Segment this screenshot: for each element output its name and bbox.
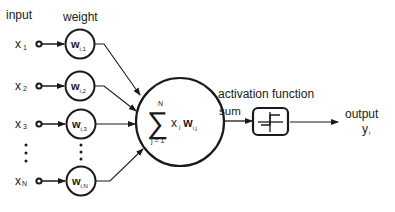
sum-label: sum [219,105,241,117]
step-function-icon [253,108,288,135]
input-row-2: x2 wi,2 [15,72,136,112]
input-node-icon [36,178,41,183]
input-header: input [6,8,33,22]
weight-node [67,167,96,196]
input-label: x2 [15,79,27,93]
input-node-icon [36,83,41,88]
weight-node [66,30,95,59]
input-label: x3 [15,117,27,131]
weight-node [67,110,96,139]
sum-lower-limit: j = 1 [150,137,165,145]
sigma-icon: ∑ [147,106,168,140]
output-label: output [345,107,379,121]
input-row-n: xN wi,N [15,149,143,196]
activation-label: activation function [218,87,314,101]
neuron-diagram: input weight x1 wi,1 x2 wi,2 x3 wi,3 xN [0,0,395,212]
input-row-3: x3 wi,3 [15,110,135,139]
output-symbol: yi [362,122,370,136]
input-node-icon [36,121,41,126]
weight-header: weight [62,10,98,24]
input-label: xN [15,174,27,188]
input-label: x1 [15,37,27,51]
weight-node [66,72,95,101]
summation-node: N ∑ j = 1 xjwi,j [136,78,224,166]
input-node-icon [36,41,41,46]
ellipsis-dots [25,144,83,163]
